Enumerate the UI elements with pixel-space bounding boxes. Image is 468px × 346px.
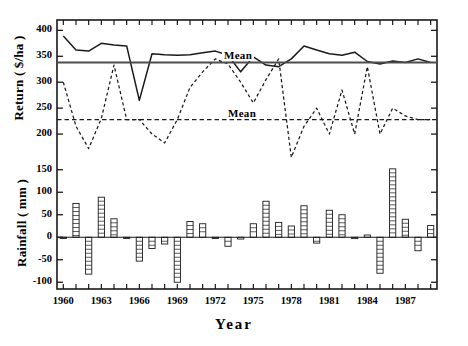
rainfall-bar [200,224,206,238]
rainfall-bar [377,237,383,273]
rainfall-bar [428,226,434,238]
figure-canvas: Return ( $/ha ) Rainfall ( mm ) Year 200… [0,0,468,346]
rainfall-bar [98,197,104,237]
rainfall-bar [136,237,142,261]
rainfall-bar [86,237,92,274]
rainfall-bar [339,215,345,238]
rainfall-bar [187,222,193,238]
rainfall-bar [314,237,320,243]
rainfall-bar [162,237,168,244]
rainfall-bar [276,222,282,237]
rainfall-bar [415,237,421,251]
rainfall-bar [250,224,256,238]
rainfall-bar [73,204,79,238]
mean-label-upper: Mean [222,49,254,61]
rainfall-bar [402,219,408,237]
rainfall-bar [225,237,231,246]
rainfall-bar [111,219,117,237]
rainfall-bar [263,201,269,237]
mean-label-lower: Mean [226,107,258,119]
return-solid-series [63,36,430,100]
rainfall-bar [301,206,307,238]
rainfall-bar [174,237,180,282]
rainfall-bar [390,169,396,237]
rainfall-bar [326,210,332,237]
rainfall-bar [149,237,155,248]
rainfall-bar [288,226,294,237]
